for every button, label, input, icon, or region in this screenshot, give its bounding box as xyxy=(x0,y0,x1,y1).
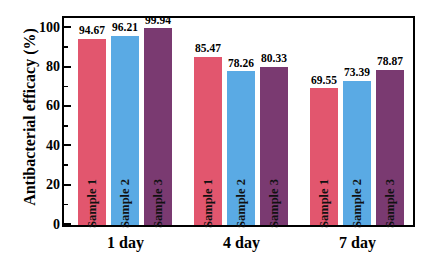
chart-figure: Antibacterial efficacy (%) 020406080100 … xyxy=(0,0,432,265)
bar-value-label: 96.21 xyxy=(112,22,138,34)
bar-series-label: Sample 1 xyxy=(201,179,216,228)
y-tick-label: 20 xyxy=(26,178,60,192)
y-tick-major xyxy=(64,26,71,28)
y-tick-label: 100 xyxy=(26,21,60,35)
x-axis-group-label: 4 day xyxy=(223,234,260,252)
y-axis-tick-labels: 020406080100 xyxy=(24,0,60,265)
bar-value-label: 99.94 xyxy=(145,15,171,27)
y-tick-label: 80 xyxy=(26,60,60,74)
y-tick-minor xyxy=(64,86,68,88)
bar-series-label: Sample 2 xyxy=(350,179,365,228)
bar-value-label: 78.87 xyxy=(377,56,403,68)
y-tick-major xyxy=(64,223,71,225)
y-tick-major xyxy=(64,66,71,68)
y-tick-major xyxy=(64,184,71,186)
y-tick-label: 40 xyxy=(26,139,60,153)
bar-series-label: Sample 3 xyxy=(151,179,166,228)
bar: 80.33Sample 3 xyxy=(260,67,288,225)
bar: 94.67Sample 1 xyxy=(78,39,106,225)
bar-value-label: 69.55 xyxy=(311,75,337,87)
bar-value-label: 94.67 xyxy=(79,25,105,37)
bar-value-label: 73.39 xyxy=(344,67,370,79)
y-tick-label: 0 xyxy=(26,218,60,232)
bar-series-label: Sample 3 xyxy=(383,179,398,228)
y-tick-label: 60 xyxy=(26,99,60,113)
bar-series-label: Sample 3 xyxy=(267,179,282,228)
bar-series-label: Sample 2 xyxy=(234,179,249,228)
y-tick-minor xyxy=(64,125,68,127)
bar-series-label: Sample 1 xyxy=(317,179,332,228)
bar: 96.21Sample 2 xyxy=(111,36,139,225)
y-tick-major xyxy=(64,105,71,107)
y-tick-minor xyxy=(64,204,68,206)
y-tick-major xyxy=(64,144,71,146)
bar: 69.55Sample 1 xyxy=(310,88,338,225)
x-axis-group-label: 7 day xyxy=(339,234,376,252)
bar-value-label: 85.47 xyxy=(195,43,221,55)
bar-series-label: Sample 1 xyxy=(85,179,100,228)
bar: 85.47Sample 1 xyxy=(194,57,222,225)
bar: 99.94Sample 3 xyxy=(144,28,172,225)
bar: 78.26Sample 2 xyxy=(227,71,255,225)
bar: 73.39Sample 2 xyxy=(343,81,371,225)
bar-series-label: Sample 2 xyxy=(118,179,133,228)
y-tick-minor xyxy=(64,164,68,166)
bar-value-label: 78.26 xyxy=(228,58,254,70)
bar: 78.87Sample 3 xyxy=(376,70,404,225)
y-tick-minor xyxy=(64,46,68,48)
x-axis-group-label: 1 day xyxy=(107,234,144,252)
plot-area: 94.67Sample 196.21Sample 299.94Sample 38… xyxy=(62,16,415,227)
bar-value-label: 80.33 xyxy=(261,53,287,65)
